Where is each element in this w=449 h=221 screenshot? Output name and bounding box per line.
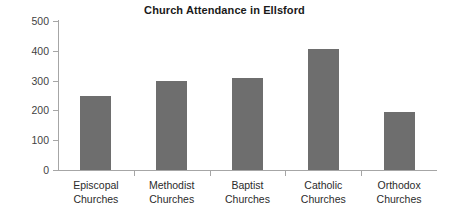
x-axis-category-label: OrthodoxChurches [361,178,437,206]
y-axis-tick-label: 100 [5,135,49,146]
y-axis-tick [53,110,58,111]
y-axis-tick [53,170,58,171]
x-axis-tick [210,171,211,176]
x-axis-category-label-line: Episcopal [58,178,134,192]
chart-title: Church Attendance in Ellsford [0,4,449,16]
plot-area [58,21,437,170]
x-axis-category-label-line: Orthodox [361,178,437,192]
y-axis-tick-label: 500 [5,16,49,27]
x-axis-tick [285,171,286,176]
bar[interactable] [80,96,111,171]
x-axis-category-label-line: Churches [285,192,361,206]
y-axis-tick-label: 300 [5,75,49,86]
x-axis-category-label: BaptistChurches [210,178,286,206]
x-axis-category-label-line: Churches [361,192,437,206]
y-axis-tick [53,51,58,52]
x-axis-category-label: MethodistChurches [134,178,210,206]
y-axis-tick-labels: 0100200300400500 [0,0,49,221]
x-axis-category-label-line: Churches [134,192,210,206]
y-axis-tick-label: 400 [5,46,49,57]
x-axis-tick [134,171,135,176]
x-axis-tick [361,171,362,176]
x-axis-category-labels: EpiscopalChurchesMethodistChurchesBaptis… [58,178,437,218]
x-axis-category-label-line: Catholic [285,178,361,192]
bar-chart: Church Attendance in Ellsford 0100200300… [0,0,449,221]
x-axis-category-label-line: Methodist [134,178,210,192]
y-axis-tick [53,81,58,82]
x-axis-category-label-line: Baptist [210,178,286,192]
x-axis-category-label-line: Churches [58,192,134,206]
x-axis-category-label-line: Churches [210,192,286,206]
x-axis-line [58,170,437,171]
x-axis-category-label: EpiscopalChurches [58,178,134,206]
bar[interactable] [308,49,339,170]
bar[interactable] [156,81,187,170]
x-axis-category-label: CatholicChurches [285,178,361,206]
bar[interactable] [232,78,263,170]
bar[interactable] [384,112,415,170]
y-axis-tick [53,21,58,22]
y-axis-tick [53,140,58,141]
y-axis-tick-label: 0 [5,165,49,176]
y-axis-tick-label: 200 [5,105,49,116]
